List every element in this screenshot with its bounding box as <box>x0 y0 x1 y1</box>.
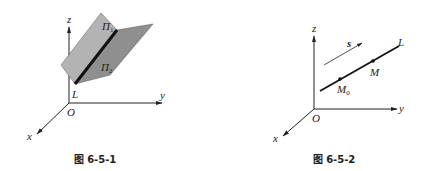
point-M0 <box>338 77 342 81</box>
line-label-L: L <box>397 36 404 48</box>
origin-label: O <box>67 106 75 118</box>
x-axis <box>37 103 69 134</box>
figure-caption: 图 6-5-1 <box>74 154 117 165</box>
direction-vector-s <box>324 43 362 65</box>
plane-pi1-label: Π1 <box>101 20 114 34</box>
z-axis-label: z <box>66 13 72 25</box>
line-label-L: L <box>71 88 78 100</box>
y-axis-label: y <box>398 102 404 114</box>
line-L <box>320 46 399 91</box>
figure-6-5-1: z y x O L Π1 Π2 图 6-5-1 <box>26 13 165 165</box>
figure-canvas: z y x O L Π1 Π2 图 6-5-1 z y x O L s M0 M… <box>0 0 429 171</box>
vector-label-s: s <box>346 37 351 49</box>
figure-6-5-2: z y x O L s M0 M 图 6-5-2 <box>272 22 404 165</box>
x-axis-label: x <box>26 130 32 142</box>
point-M0-label: M0 <box>336 83 350 97</box>
x-axis <box>283 109 314 136</box>
y-axis-label: y <box>159 89 165 101</box>
point-M-label: M <box>369 66 380 78</box>
x-axis-label: x <box>272 132 278 144</box>
figure-caption: 图 6-5-2 <box>313 154 356 165</box>
point-M <box>371 59 375 63</box>
origin-label: O <box>312 112 320 124</box>
z-axis-label: z <box>311 22 317 34</box>
